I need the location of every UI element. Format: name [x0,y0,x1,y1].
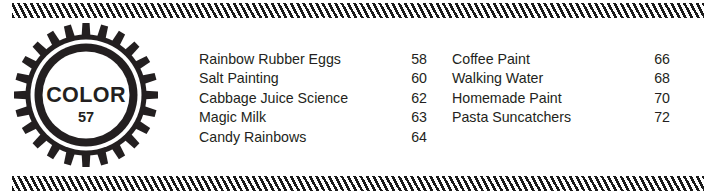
contents-entry-page-number: 63 [405,108,427,127]
contents-entry-title: Rainbow Rubber Eggs [199,50,405,69]
gear-seal-icon: COLOR 57 [12,21,160,169]
contents-column-left: Rainbow Rubber Eggs58Salt Painting60Cabb… [199,50,427,147]
contents-entry-title: Homemade Paint [452,89,648,108]
badge-number: 57 [78,109,94,125]
contents-entry[interactable]: Coffee Paint66 [452,50,670,69]
contents-entry-title: Cabbage Juice Science [199,89,405,108]
contents-entry[interactable]: Salt Painting60 [199,69,427,88]
contents-entry-page-number: 68 [648,69,670,88]
contents-entry[interactable]: Candy Rainbows64 [199,128,427,147]
contents-entry[interactable]: Pasta Suncatchers72 [452,108,670,127]
contents-entry-page-number: 72 [648,108,670,127]
contents-entry[interactable]: Cabbage Juice Science62 [199,89,427,108]
contents-entry-page-number: 70 [648,89,670,108]
top-hatch-rule [12,3,704,18]
contents-entry-title: Coffee Paint [452,50,648,69]
section-badge: COLOR 57 [12,21,160,169]
contents-entry-title: Salt Painting [199,69,405,88]
contents-entry-page-number: 58 [405,50,427,69]
contents-entry[interactable]: Walking Water68 [452,69,670,88]
contents-entry-page-number: 60 [405,69,427,88]
contents-entry-page-number: 62 [405,89,427,108]
contents-entry-title: Walking Water [452,69,648,88]
badge-label: COLOR [46,83,126,107]
contents-entry[interactable]: Magic Milk63 [199,108,427,127]
contents-entry-page-number: 66 [648,50,670,69]
contents-entry-title: Candy Rainbows [199,128,405,147]
contents-entry[interactable]: Rainbow Rubber Eggs58 [199,50,427,69]
contents-page: COLOR 57 Rainbow Rubber Eggs58Salt Paint… [0,0,704,191]
contents-entry-page-number: 64 [405,128,427,147]
contents-column-right: Coffee Paint66Walking Water68Homemade Pa… [452,50,670,128]
contents-entry-title: Magic Milk [199,108,405,127]
bottom-hatch-rule [12,176,704,191]
contents-entry[interactable]: Homemade Paint70 [452,89,670,108]
contents-entry-title: Pasta Suncatchers [452,108,648,127]
